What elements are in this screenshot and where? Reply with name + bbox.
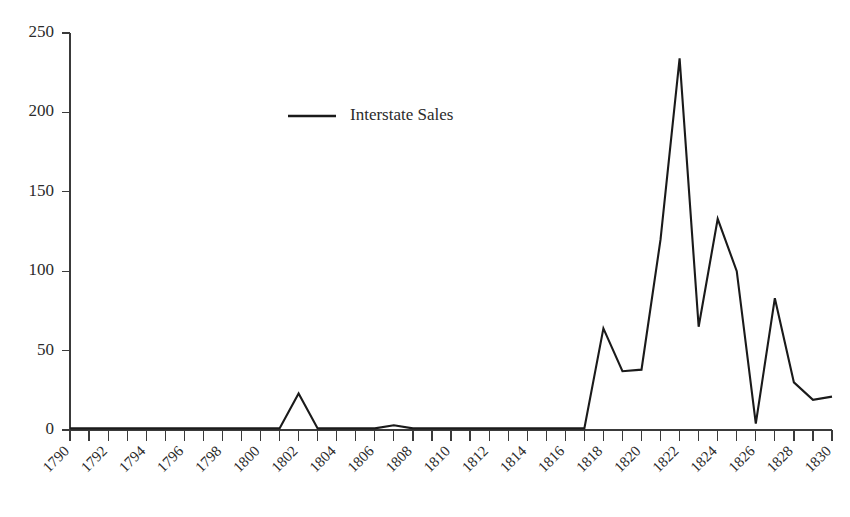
x-tick-label: 1806 — [344, 442, 377, 475]
x-tick-label: 1808 — [382, 443, 415, 476]
x-tick-label: 1824 — [687, 442, 720, 475]
x-tick-label: 1820 — [611, 443, 644, 476]
y-axis: 050100150200250 — [29, 22, 71, 438]
x-tick-label: 1816 — [535, 442, 568, 475]
x-tick-label: 1822 — [649, 443, 682, 476]
x-tick-label: 1790 — [40, 443, 73, 476]
x-axis: 1790179217941796179818001802180418061808… — [40, 430, 835, 475]
x-tick-label: 1826 — [725, 442, 758, 475]
x-tick-label: 1804 — [306, 442, 339, 475]
x-tick-label: 1828 — [763, 443, 796, 476]
y-tick-label: 0 — [46, 419, 55, 438]
x-tick-label: 1798 — [192, 443, 225, 476]
chart-legend: Interstate Sales — [288, 105, 453, 124]
y-tick-label: 50 — [37, 340, 54, 359]
x-tick-label: 1814 — [497, 442, 530, 475]
y-tick-label: 250 — [29, 22, 55, 41]
y-tick-label: 100 — [29, 260, 55, 279]
x-tick-label: 1794 — [116, 442, 149, 475]
x-tick-label: 1818 — [573, 443, 606, 476]
x-tick-label: 1796 — [154, 442, 187, 475]
chart-container: 050100150200250 179017921794179617981800… — [0, 0, 850, 517]
x-tick-label: 1802 — [268, 443, 301, 476]
y-tick-label: 150 — [29, 181, 55, 200]
x-axis-tick-group: 1790179217941796179818001802180418061808… — [40, 430, 835, 475]
legend-label: Interstate Sales — [350, 105, 453, 124]
y-axis-tick-group: 050100150200250 — [29, 22, 71, 438]
x-tick-label: 1812 — [459, 443, 492, 476]
x-tick-label: 1800 — [230, 443, 263, 476]
x-tick-label: 1792 — [78, 443, 111, 476]
x-tick-label: 1810 — [421, 443, 454, 476]
y-tick-label: 200 — [29, 101, 55, 120]
line-chart: 050100150200250 179017921794179617981800… — [0, 0, 850, 517]
x-tick-label: 1830 — [802, 443, 835, 476]
